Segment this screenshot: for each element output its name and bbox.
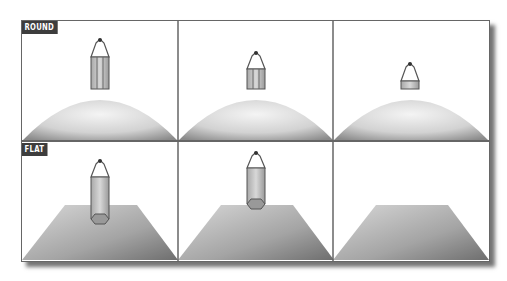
pencil-icon	[401, 62, 419, 89]
panel-flat-1	[22, 159, 178, 260]
row-label-flat: FLAT	[22, 143, 47, 156]
panel-round-3	[333, 62, 489, 141]
pencil-icon	[91, 38, 109, 89]
panel-round-2	[178, 51, 334, 141]
diagram-canvas	[22, 21, 489, 261]
pencil-icon	[91, 159, 109, 224]
pencil-icon	[247, 51, 265, 89]
panel-round-1	[22, 38, 178, 141]
diagram-frame: ROUND FLAT	[21, 20, 490, 262]
row-label-round: ROUND	[22, 21, 57, 34]
panel-flat-3	[333, 205, 489, 260]
pencil-icon	[247, 151, 265, 209]
panel-flat-2	[178, 151, 334, 260]
